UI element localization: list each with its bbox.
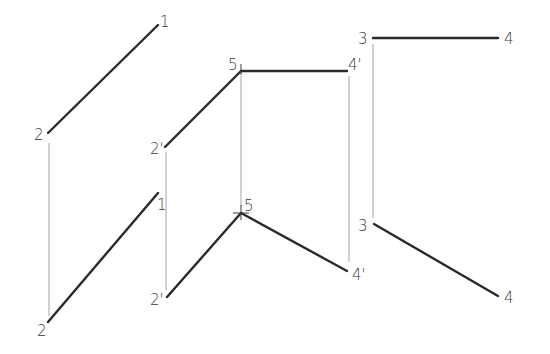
label-top-1: 1 xyxy=(160,13,170,31)
front-view-line-2-1 xyxy=(48,193,158,322)
label-top-4: 4 xyxy=(504,30,514,48)
top-view-line-2-5 xyxy=(165,71,241,147)
label-top-2: 2 xyxy=(34,126,44,144)
label-top-3: 3 xyxy=(358,30,368,48)
panel-line-3-4: 3 4 3 4 xyxy=(358,30,514,307)
label-front-5: 5 xyxy=(244,197,254,215)
top-view-line-2-1 xyxy=(48,25,158,133)
label-front-4: 4 xyxy=(504,289,514,307)
label-top-4-prime: 4' xyxy=(348,56,362,74)
diagram-svg: 1 2 1 2 5 4' 2' 5 4' 2' xyxy=(0,0,550,354)
label-front-3: 3 xyxy=(358,217,368,235)
panel-bent-line-2-5-4: 5 4' 2' 5 4' 2' xyxy=(150,56,366,309)
front-view-line-2-5 xyxy=(167,213,241,297)
front-view-line-3-4 xyxy=(374,224,498,296)
label-front-2-prime: 2' xyxy=(150,291,164,309)
label-front-2: 2 xyxy=(37,322,47,340)
label-front-1: 1 xyxy=(157,196,167,214)
front-view-line-5-4 xyxy=(241,213,347,271)
orthographic-projection-diagram: 1 2 1 2 5 4' 2' 5 4' 2' xyxy=(0,0,550,354)
label-top-5: 5 xyxy=(228,56,238,74)
label-top-2-prime: 2' xyxy=(150,140,164,158)
label-front-4-prime: 4' xyxy=(352,266,366,284)
